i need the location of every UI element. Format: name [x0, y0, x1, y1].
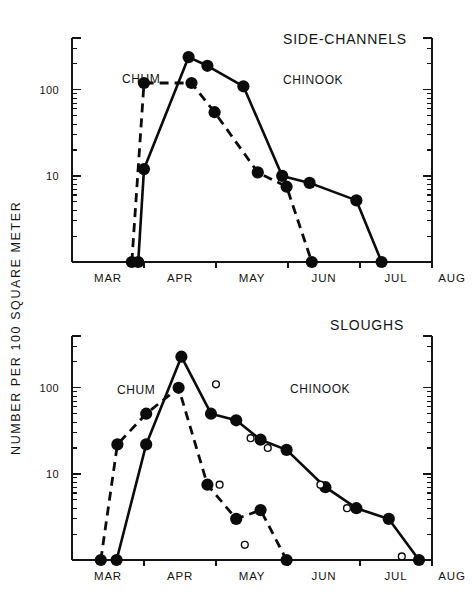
data-point-chinook: [230, 414, 242, 426]
data-point-chum: [111, 438, 123, 450]
y-axis-tick-label: 10: [46, 468, 59, 480]
panel-side-channels: SIDE-CHANNELS CHUM CHINOOK MARAPRMAYJUNJ…: [39, 31, 465, 284]
figure-container: NUMBER PER 100 SQUARE METER SIDE-CHANNEL…: [0, 0, 472, 602]
x-axis-month-label: JUN: [312, 570, 337, 582]
data-point-chinook: [304, 177, 316, 189]
data-point-chum: [201, 479, 213, 491]
x-axis-month-label: JUN: [312, 272, 337, 284]
data-point-chinook: [111, 554, 123, 566]
data-point-chinook-open: [247, 435, 254, 442]
data-point-chum: [138, 77, 150, 89]
x-axis-month-label: MAR: [94, 272, 122, 284]
series-label-chinook-side-channels: CHINOOK: [283, 73, 343, 87]
data-point-chinook: [413, 554, 425, 566]
data-point-chum: [255, 504, 267, 516]
data-point-chinook: [383, 513, 395, 525]
data-point-chinook: [132, 256, 144, 268]
x-axis-month-label: MAR: [94, 570, 122, 582]
series-line-chinook: [117, 357, 419, 560]
y-axis-tick-label: 100: [39, 382, 59, 394]
data-point-chinook: [237, 80, 249, 92]
x-axis-month-label: AUG: [438, 570, 465, 582]
data-point-chinook-open: [344, 505, 351, 512]
plot-area-side-channels: [126, 51, 388, 268]
panel-title-side-channels: SIDE-CHANNELS: [283, 31, 407, 47]
data-point-chum: [173, 382, 185, 394]
data-point-chinook: [281, 444, 293, 456]
data-point-chinook: [205, 408, 217, 420]
series-label-chum-sloughs: CHUM: [117, 383, 155, 397]
data-point-chum: [281, 554, 293, 566]
data-point-chinook: [201, 60, 213, 72]
y-axis-tick-label: 10: [46, 170, 59, 182]
data-point-chinook-open: [213, 381, 220, 388]
data-point-chinook: [255, 434, 267, 446]
data-point-chum: [252, 166, 264, 178]
series-line-chum: [101, 388, 287, 560]
data-point-chinook: [376, 256, 388, 268]
data-point-chum: [140, 408, 152, 420]
data-point-chum: [230, 513, 242, 525]
data-point-chum: [281, 181, 293, 193]
panel-sloughs: SLOUGHS CHUM CHINOOK MARAPRMAYJUNJULAUG1…: [39, 317, 465, 582]
data-point-chinook-open: [264, 445, 271, 452]
series-line-chinook: [138, 57, 381, 262]
data-point-chinook-open: [398, 553, 405, 560]
x-axis-month-label: MAY: [239, 272, 265, 284]
x-axis-month-label: JUL: [385, 272, 408, 284]
y-axis-tick-label: 100: [39, 84, 59, 96]
x-axis-month-label: MAY: [239, 570, 265, 582]
data-point-chinook: [138, 163, 150, 175]
data-point-chinook: [276, 170, 288, 182]
data-point-chum: [306, 256, 318, 268]
data-point-chinook-open: [216, 481, 223, 488]
data-point-chinook: [140, 438, 152, 450]
data-point-chum: [209, 106, 221, 118]
axes-side-channels: MARAPRMAYJUNJULAUG10100: [39, 38, 465, 284]
x-axis-month-label: JUL: [385, 570, 408, 582]
series-label-chinook-sloughs: CHINOOK: [290, 382, 350, 396]
y-axis-title: NUMBER PER 100 SQUARE METER: [9, 201, 23, 455]
data-point-chum: [95, 554, 107, 566]
panel-title-sloughs: SLOUGHS: [330, 317, 404, 333]
x-axis-month-label: AUG: [438, 272, 465, 284]
data-point-chum: [185, 77, 197, 89]
salmon-density-figure: NUMBER PER 100 SQUARE METER SIDE-CHANNEL…: [0, 0, 472, 602]
data-point-chinook-open: [241, 541, 248, 548]
data-point-chinook-open: [317, 481, 324, 488]
data-point-chinook: [175, 351, 187, 363]
data-point-chinook: [350, 194, 362, 206]
data-point-chinook: [183, 51, 195, 63]
x-axis-month-label: APR: [167, 272, 193, 284]
data-point-chinook: [350, 502, 362, 514]
x-axis-month-label: APR: [167, 570, 193, 582]
